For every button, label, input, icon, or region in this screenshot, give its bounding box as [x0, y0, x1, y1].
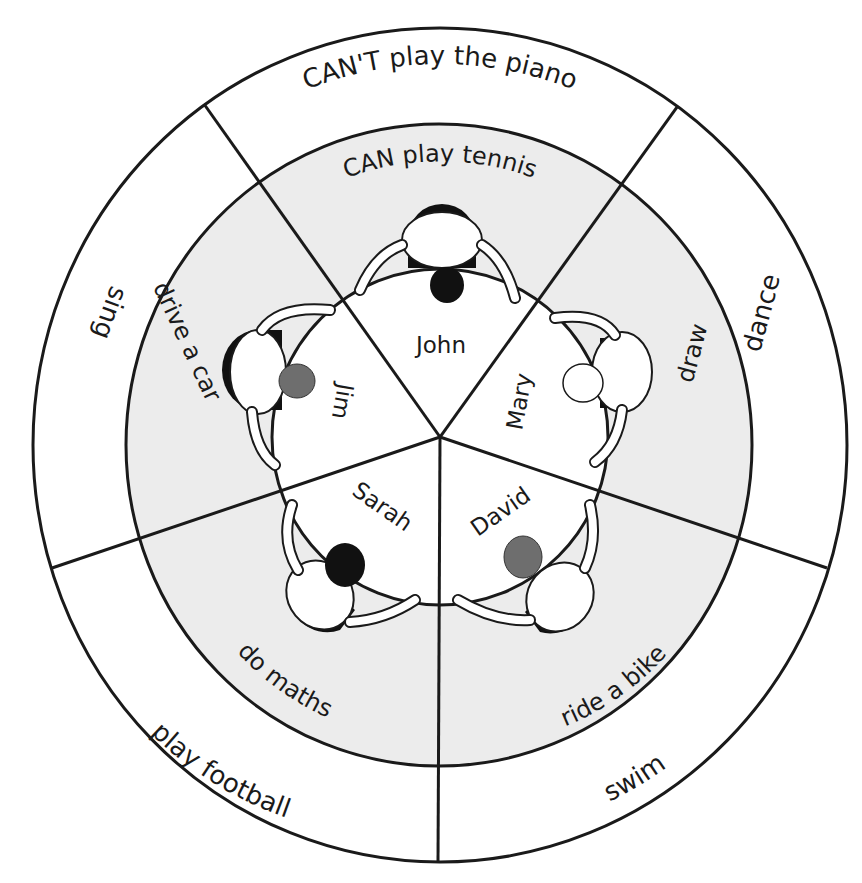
- can-cant-wheel-diagram: CAN'T play the piano sing dance play foo…: [0, 0, 862, 883]
- name-john: John: [414, 332, 466, 358]
- hair-light-icon: [563, 364, 603, 402]
- hair-gray-icon: [279, 364, 315, 398]
- hair-dark-icon: [430, 267, 464, 303]
- hair-gray-icon: [504, 536, 542, 578]
- hair-dark-icon: [325, 543, 365, 587]
